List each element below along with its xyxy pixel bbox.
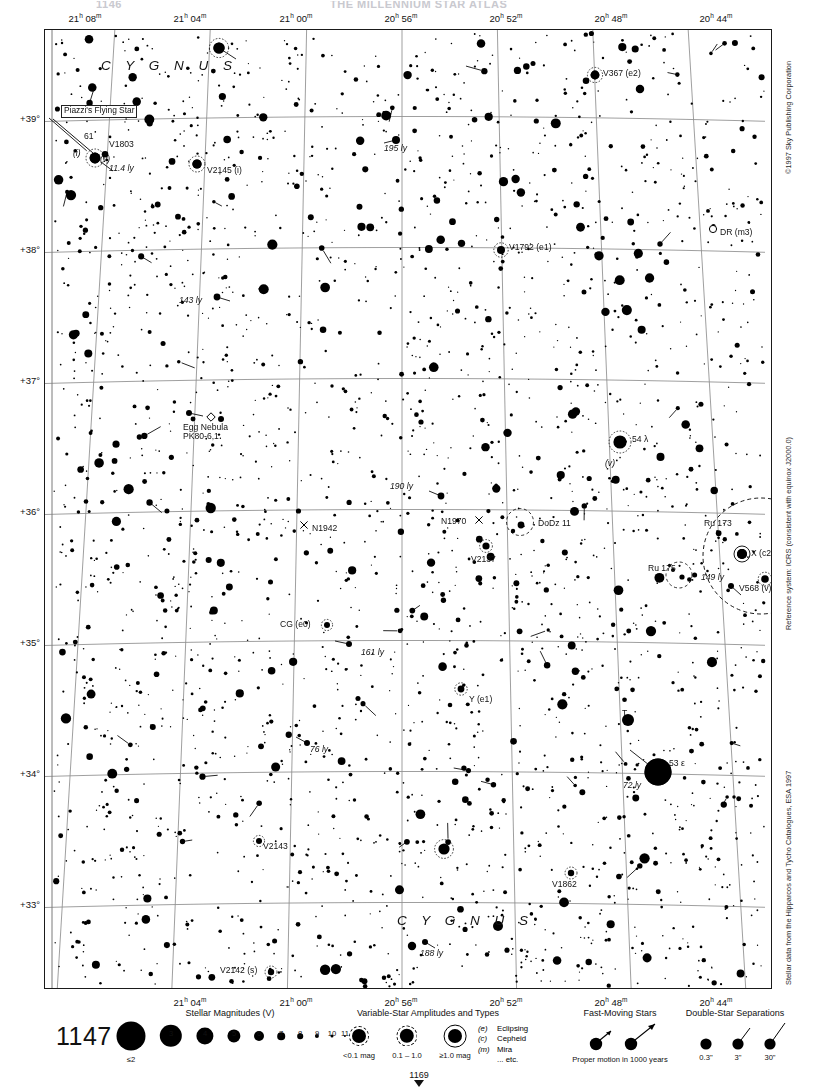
legend-var-amplitude-1: 0.1 – 1.0: [392, 1051, 422, 1060]
legend-mag-label-5: 5: [232, 1029, 236, 1038]
ra-tick-top-20h52m: 20h 52m: [490, 12, 523, 24]
map-label-n1942: N1942: [312, 524, 337, 534]
reference-system-credit: Reference system: ICRS (consistent with …: [784, 437, 793, 630]
map-label-143-ly: 143 ly: [179, 296, 202, 306]
map-label-v1792-e1: V1792 (e1): [509, 243, 552, 253]
map-label-v2137: V2137: [471, 555, 496, 565]
map-label-v568-v: V568 (v): [739, 584, 771, 594]
map-label-piazzi-s-flying-star: Piazzi's Flying Star: [61, 105, 137, 118]
map-label-t: T: [622, 709, 627, 719]
star-chart-frame[interactable]: Piazzi's Flying Star61V1803(i)(v)11.4 ly…: [44, 29, 772, 989]
legend-mag-label-6: 6: [257, 1029, 261, 1038]
map-label-cg-e0: CG (e0): [280, 620, 311, 630]
legend-var-amplitude-2: ≥1.0 mag: [439, 1051, 471, 1060]
map-label-11-4-ly: 11.4 ly: [109, 164, 134, 174]
legend-var-type-name-0: Eclipsing: [497, 1024, 528, 1033]
map-label-dr-m3: DR (m3): [720, 228, 752, 238]
legend-mag-label-4: 4: [203, 1029, 207, 1038]
legend-mag-label-11: 11: [341, 1029, 349, 1038]
legend-variables-title: Variable-Star Amplitudes and Types: [357, 1008, 499, 1018]
legend-variable-types: (e)Eclipsing(c)Cepheid(m)Mira... etc.: [478, 1024, 528, 1065]
legend-mag-label-7: 7: [279, 1029, 283, 1038]
legend-doubles-title: Double-Star Separations: [686, 1008, 785, 1018]
legend-double-sep-1: 3": [735, 1053, 742, 1062]
map-label-dodz-11: DoDz 11: [538, 519, 571, 529]
chart-legend: 1147 Stellar Magnitudes (V) ≤23456789101…: [0, 1000, 813, 1090]
double-star-separation-icon: [690, 1022, 786, 1050]
proper-motion-icon: [575, 1022, 667, 1052]
chart-label-overlay: Piazzi's Flying Star61V1803(i)(v)11.4 ly…: [45, 30, 771, 988]
map-label-ru-173: Ru 173: [704, 519, 732, 529]
page-number-fragment: 1146: [96, 1, 136, 8]
map-label-v2142-s: V2142 (s): [220, 966, 257, 976]
legend-mag-dot-2: [117, 1022, 146, 1051]
legend-var-type-name-1: Cepheid: [497, 1034, 526, 1043]
dec-tick-39: +39°: [0, 113, 40, 124]
legend-var-type-mira: (m)Mira: [478, 1045, 528, 1055]
map-label-v367-e2: V367 (e2): [603, 69, 641, 79]
map-label-i: (i): [73, 149, 81, 159]
map-label-72-ly: 72 ly: [623, 781, 641, 791]
legend-var-type--etc-: ... etc.: [478, 1055, 528, 1065]
legend-var-ring-2: [444, 1025, 467, 1048]
legend-mag-label-2: ≤2: [127, 1055, 135, 1064]
legend-var-type-cepheid: (c)Cepheid: [478, 1034, 528, 1044]
map-label-y-e1: Y (e1): [469, 695, 492, 705]
map-label-v2145-i: V2145 (i): [207, 166, 242, 176]
dec-tick-34: +34°: [0, 768, 40, 779]
legend-magnitudes-title: Stellar Magnitudes (V): [185, 1008, 274, 1018]
map-label-v1862: V1862: [552, 880, 577, 890]
dec-tick-38: +38°: [0, 244, 40, 255]
legend-fastmoving-title: Fast-Moving Stars: [583, 1008, 656, 1018]
next-chart-arrow-icon: [412, 1079, 426, 1088]
map-label-54: 54 λ: [632, 435, 648, 445]
constellation-label-cygnus-1: C Y G N U S: [101, 58, 238, 73]
ra-tick-top-20h44m: 20h 44m: [700, 12, 733, 24]
dec-tick-33: +33°: [0, 899, 40, 910]
legend-fastmoving-caption: Proper motion in 1000 years: [572, 1055, 667, 1064]
ra-tick-top-21h00m: 21h 00m: [280, 12, 313, 24]
map-label-76-ly: 76 ly: [310, 745, 328, 755]
map-label-n1970: N1970: [441, 517, 466, 527]
atlas-title-fragment: THE MILLENNIUM STAR ATLAS: [330, 1, 520, 8]
map-label-149-ly: 149 ly: [701, 573, 724, 583]
ra-tick-top-20h56m: 20h 56m: [385, 12, 418, 24]
ra-tick-top-21h08m: 21h 08m: [69, 12, 102, 24]
map-label-61: 61: [84, 132, 94, 142]
legend-var-type-key-2: (m): [478, 1045, 497, 1055]
constellation-label-cygnus-2: C Y G N U S: [397, 913, 534, 928]
dec-tick-36: +36°: [0, 506, 40, 517]
map-label-53: 53 ε: [669, 759, 685, 769]
legend-var-type-key-0: (e): [478, 1024, 497, 1034]
chart-number: 1147: [56, 1022, 112, 1051]
legend-mag-label-3: 3: [169, 1029, 173, 1038]
dec-tick-35: +35°: [0, 637, 40, 648]
legend-var-type-key-1: (c): [478, 1034, 497, 1044]
map-label-190-ly: 190 ly: [390, 482, 413, 492]
dec-tick-37: +37°: [0, 375, 40, 386]
legend-mag-label-8: 8: [298, 1029, 302, 1038]
legend-double-sep-2: 30": [764, 1053, 775, 1062]
legend-var-ring-1: [396, 1025, 417, 1046]
map-label-188-ly: 188 ly: [420, 949, 443, 959]
copyright-credit: ©1997 Sky Publishing Corporation: [784, 61, 793, 174]
map-label-ru-175: Ru 175: [648, 564, 676, 574]
legend-double-sep-0: 0.3": [699, 1053, 712, 1062]
map-label-54-lambda-type: (v): [605, 459, 615, 469]
map-label-195-ly: 195 ly: [384, 144, 407, 154]
legend-var-ring-0: [349, 1026, 369, 1046]
legend-var-type-eclipsing: (e)Eclipsing: [478, 1024, 528, 1034]
legend-var-type-name-3: ... etc.: [497, 1055, 518, 1064]
legend-mag-label-9: 9: [315, 1029, 319, 1038]
map-label-v2143: V2143: [263, 842, 288, 852]
legend-mag-label-10: 10: [328, 1029, 336, 1038]
map-label-v1803: V1803: [109, 140, 134, 150]
map-label-161-ly: 161 ly: [361, 648, 384, 658]
legend-var-amplitude-0: <0.1 mag: [343, 1051, 375, 1060]
data-source-credit: Stellar data from the Hipparcos and Tych…: [784, 771, 793, 985]
legend-var-type-name-2: Mira: [497, 1045, 512, 1054]
ra-tick-top-21h04m: 21h 04m: [174, 12, 207, 24]
map-label-x-c2: X (c2): [751, 549, 772, 559]
map-label-pk80-6-1: PK80-6,1: [183, 432, 219, 442]
ra-tick-top-20h48m: 20h 48m: [595, 12, 628, 24]
